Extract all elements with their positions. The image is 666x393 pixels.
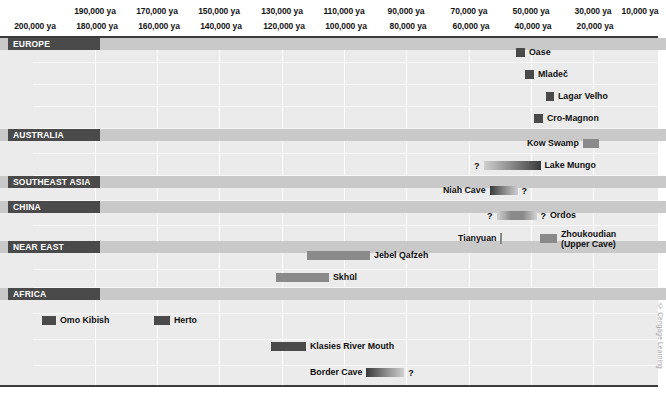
bar-lake-mungo xyxy=(484,161,541,170)
entry-jebel-qafzeh: Jebel Qafzeh xyxy=(307,249,428,262)
entry-label-lagar-velho: Lagar Velho xyxy=(558,91,608,102)
axis-tick-bottom-6: 80,000 ya xyxy=(390,21,427,31)
entry-label-zhoukoudian: Zhoukoudian (Upper Cave) xyxy=(561,230,639,249)
gridline-h xyxy=(33,269,658,270)
entry-label-tianyuan: Tianyuan xyxy=(458,233,496,244)
timeline-chart: 190,000 ya 170,000 ya 150,000 ya 130,000… xyxy=(0,0,666,393)
bar-zhoukoudian xyxy=(540,234,557,243)
entry-skhul: Skhūl xyxy=(276,271,357,284)
bar-oase xyxy=(516,48,525,57)
entry-label-border-cave: Border Cave xyxy=(310,367,362,378)
axis-tick-top-6: 70,000 ya xyxy=(451,6,488,16)
bar-border-cave xyxy=(366,368,404,377)
entry-lagar-velho: Lagar Velho xyxy=(546,90,608,103)
bar-skhul xyxy=(276,273,329,282)
region-header-china: CHINA xyxy=(8,201,100,213)
axis-tick-bottom-2: 160,000 ya xyxy=(138,21,180,31)
entry-label-mladec: Mladeč xyxy=(538,69,568,80)
entry-label-ordos: Ordos xyxy=(550,210,576,221)
bar-tianyuan xyxy=(500,233,502,244)
entry-label-skhul: Skhūl xyxy=(333,272,357,283)
axis-tick-top-3: 130,000 ya xyxy=(261,6,303,16)
axis-tick-bottom-7: 60,000 ya xyxy=(453,21,490,31)
gridline-h xyxy=(33,225,658,226)
bar-klasies-river-mouth xyxy=(271,342,306,351)
axis-tick-top-7: 50,000 ya xyxy=(513,6,550,16)
gridline-h xyxy=(33,84,658,85)
bar-cro-magnon xyxy=(534,114,543,123)
uncertainty-marker-left-ordos: ? xyxy=(487,211,493,221)
region-header-southeast-asia: SOUTHEAST ASIA xyxy=(8,176,100,188)
entry-klasies-river-mouth: Klasies River Mouth xyxy=(271,340,394,353)
bar-herto xyxy=(154,316,170,325)
entry-label-niah-cave: Niah Cave xyxy=(443,185,486,196)
bar-jebel-qafzeh xyxy=(307,251,370,260)
bar-omo-kibish xyxy=(42,316,56,325)
axis-tick-bottom-1: 180,000 ya xyxy=(76,21,118,31)
gridline-h xyxy=(33,106,658,107)
axis-tick-top-8: 30,000 ya xyxy=(575,6,612,16)
time-axis: 190,000 ya 170,000 ya 150,000 ya 130,000… xyxy=(0,0,666,36)
axis-tick-bottom-3: 140,000 ya xyxy=(200,21,242,31)
entry-oase: Oase xyxy=(516,46,551,59)
gridline-h xyxy=(33,313,658,314)
entry-cro-magnon: Cro-Magnon xyxy=(534,112,599,125)
entry-label-herto: Herto xyxy=(174,315,197,326)
entry-mladec: Mladeč xyxy=(525,68,568,81)
axis-tick-bottom-9: 20,000 ya xyxy=(577,21,614,31)
gridline-h xyxy=(33,153,658,154)
axis-tick-top-5: 90,000 ya xyxy=(388,6,425,16)
entry-ordos: ? ? Ordos xyxy=(487,209,576,222)
entry-herto: Herto xyxy=(154,314,197,327)
entry-label-klasies-river-mouth: Klasies River Mouth xyxy=(310,341,394,352)
entry-label-jebel-qafzeh: Jebel Qafzeh xyxy=(374,250,428,261)
uncertainty-marker-left-lake-mungo: ? xyxy=(474,161,480,171)
entry-kow-swamp: Kow Swamp xyxy=(527,137,599,150)
gridline-h xyxy=(33,62,658,63)
axis-tick-bottom-5: 100,000 ya xyxy=(325,21,367,31)
axis-tick-top-9: 10,000 ya xyxy=(622,6,659,16)
bar-lagar-velho xyxy=(546,92,554,101)
region-header-europe: EUROPE xyxy=(8,38,100,50)
entry-label-kow-swamp: Kow Swamp xyxy=(527,138,579,149)
region-header-australia: AUSTRALIA xyxy=(8,129,100,141)
copyright-credit: © Cengage Learning xyxy=(657,303,664,369)
uncertainty-marker-right-ordos: ? xyxy=(541,211,547,221)
axis-tick-top-1: 170,000 ya xyxy=(136,6,178,16)
axis-tick-bottom-8: 40,000 ya xyxy=(515,21,552,31)
entry-zhoukoudian: Zhoukoudian (Upper Cave) xyxy=(540,230,639,248)
entry-tianyuan: Tianyuan xyxy=(458,232,502,245)
axis-tick-bottom-0: 200,000 ya xyxy=(14,21,56,31)
axis-tick-top-4: 110,000 ya xyxy=(323,6,364,16)
entry-label-lake-mungo: Lake Mungo xyxy=(545,160,596,171)
bar-niah-cave xyxy=(490,186,518,195)
axis-tick-top-0: 190,000 ya xyxy=(74,6,116,16)
bar-kow-swamp xyxy=(583,139,599,148)
axis-tick-top-2: 150,000 ya xyxy=(198,6,240,16)
entry-niah-cave: Niah Cave ? xyxy=(443,184,527,197)
entry-omo-kibish: Omo Kibish xyxy=(42,314,109,327)
entry-label-omo-kibish: Omo Kibish xyxy=(60,315,109,326)
axis-tick-bottom-4: 120,000 ya xyxy=(263,21,305,31)
entry-label-cro-magnon: Cro-Magnon xyxy=(547,113,599,124)
region-header-africa: AFRICA xyxy=(8,288,100,300)
entry-lake-mungo: ? Lake Mungo xyxy=(474,159,596,172)
region-header-near-east: NEAR EAST xyxy=(8,241,100,253)
bar-ordos xyxy=(497,211,537,220)
entry-label-oase: Oase xyxy=(529,47,551,58)
uncertainty-marker-right-border-cave: ? xyxy=(408,368,414,378)
uncertainty-marker-right-niah-cave: ? xyxy=(522,186,528,196)
entry-border-cave: Border Cave ? xyxy=(310,366,414,379)
bar-mladec xyxy=(525,70,534,79)
